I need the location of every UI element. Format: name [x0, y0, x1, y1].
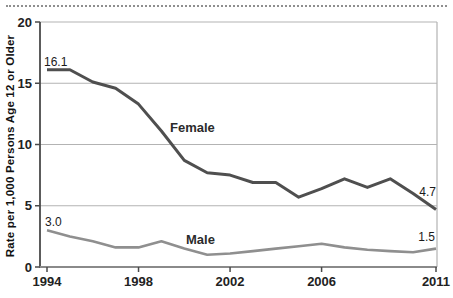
y-tick-label-20: 20 [18, 15, 32, 30]
y-tick-label-5: 5 [25, 198, 32, 213]
y-axis-title: Rate per 1,000 Persons Age 12 or Older [4, 34, 16, 257]
female-line [47, 70, 436, 210]
female-series-label: Female [170, 120, 215, 135]
male-line [47, 230, 436, 255]
y-tick-label-15: 15 [18, 76, 32, 91]
female-start-value-label: 16.1 [44, 55, 68, 69]
figure: 19941998200220062011 05101520 Rate per 1… [0, 0, 453, 298]
x-tick-labels: 19941998200220062011 [33, 274, 451, 289]
x-tick-label-2002: 2002 [216, 274, 245, 289]
y-tick-label-0: 0 [25, 260, 32, 275]
x-tick-label-1998: 1998 [124, 274, 153, 289]
y-tick-labels: 05101520 [18, 15, 32, 275]
line-chart: 19941998200220062011 05101520 Rate per 1… [0, 0, 453, 298]
series-lines [47, 70, 436, 255]
x-tick-label-1994: 1994 [33, 274, 63, 289]
x-tick-label-2011: 2011 [422, 274, 450, 289]
female-end-value-label: 4.7 [419, 185, 436, 199]
male-end-value-label: 1.5 [418, 230, 435, 244]
tick-marks [35, 22, 436, 272]
y-tick-label-10: 10 [18, 137, 32, 152]
x-tick-label-2006: 2006 [307, 274, 336, 289]
male-series-label: Male [186, 232, 215, 247]
gridlines [40, 22, 437, 267]
male-start-value-label: 3.0 [45, 215, 62, 229]
